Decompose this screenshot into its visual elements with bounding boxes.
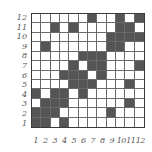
grid-cell-empty <box>97 42 106 51</box>
grid-cell-empty <box>135 23 144 32</box>
x-axis-labels: 123456789101112 <box>31 136 145 148</box>
grid-cell-empty <box>79 42 88 51</box>
grid-cell-empty <box>69 42 78 51</box>
grid-cell-filled <box>51 99 60 108</box>
grid-cell-empty <box>116 118 125 127</box>
grid-cell-filled <box>116 33 125 42</box>
grid-cell-filled <box>69 80 78 89</box>
grid-cell-empty <box>97 80 106 89</box>
grid-cell-filled <box>97 71 106 80</box>
grid-cell-filled <box>135 33 144 42</box>
grid-cell-empty <box>97 89 106 98</box>
grid-cell-empty <box>107 118 116 127</box>
grid-cell-empty <box>32 33 41 42</box>
grid-cell-empty <box>116 71 125 80</box>
grid-cell-empty <box>60 80 69 89</box>
grid-cell-filled <box>79 89 88 98</box>
grid-cell-empty <box>107 52 116 61</box>
grid-cell-empty <box>79 33 88 42</box>
grid-cell-filled <box>41 99 50 108</box>
grid-cell-empty <box>116 61 125 70</box>
grid-cell-empty <box>97 99 106 108</box>
grid-cell-empty <box>107 61 116 70</box>
grid-cell-filled <box>32 118 41 127</box>
grid-cell-empty <box>69 33 78 42</box>
grid-cell-empty <box>51 80 60 89</box>
grid-cell-empty <box>41 89 50 98</box>
grid-cell-empty <box>32 23 41 32</box>
grid-cell-filled <box>116 23 125 32</box>
grid-cell-empty <box>107 99 116 108</box>
grid-cell-empty <box>32 61 41 70</box>
grid-cell-empty <box>60 14 69 23</box>
grid-cell-empty <box>116 52 125 61</box>
grid-cell-empty <box>88 99 97 108</box>
grid-cell-empty <box>125 52 134 61</box>
grid-cell-filled <box>79 52 88 61</box>
grid-cell-empty <box>135 89 144 98</box>
grid-cell-filled <box>97 61 106 70</box>
x-axis-label: 11 <box>126 136 136 148</box>
y-axis-label: 6 <box>0 71 27 81</box>
grid-cell-empty <box>79 14 88 23</box>
grid-cell-empty <box>88 71 97 80</box>
grid-cell-empty <box>69 89 78 98</box>
grid-cell-empty <box>69 99 78 108</box>
grid-cell-empty <box>88 42 97 51</box>
grid-cell-filled <box>125 80 134 89</box>
x-axis-label: 4 <box>60 136 70 148</box>
grid-cell-empty <box>97 33 106 42</box>
grid-cell-empty <box>69 118 78 127</box>
grid-cell-empty <box>69 52 78 61</box>
grid-cell-empty <box>116 108 125 117</box>
grid-cell-empty <box>51 42 60 51</box>
grid-cell-filled <box>51 89 60 98</box>
grid-cell-empty <box>107 89 116 98</box>
y-axis-label: 11 <box>0 23 27 33</box>
grid-cell-empty <box>32 80 41 89</box>
grid-cell-empty <box>97 14 106 23</box>
x-axis-label: 2 <box>41 136 51 148</box>
grid-cell-empty <box>107 80 116 89</box>
y-axis-label: 3 <box>0 99 27 109</box>
grid-cell-empty <box>60 33 69 42</box>
y-axis-label: 8 <box>0 51 27 61</box>
grid-cell-filled <box>41 108 50 117</box>
grid-cell-empty <box>51 61 60 70</box>
grid-cell-filled <box>41 118 50 127</box>
x-axis-label: 1 <box>31 136 41 148</box>
grid-cell-empty <box>135 99 144 108</box>
grid-cell-empty <box>32 71 41 80</box>
y-axis-label: 5 <box>0 80 27 90</box>
grid-cell-empty <box>79 23 88 32</box>
grid-cell-empty <box>125 118 134 127</box>
cell-grid <box>31 13 145 128</box>
grid-cell-empty <box>32 99 41 108</box>
grid-cell-filled <box>88 14 97 23</box>
grid-cell-filled <box>125 33 134 42</box>
grid-cell-empty <box>41 23 50 32</box>
grid-cell-filled <box>107 33 116 42</box>
grid-cell-empty <box>135 71 144 80</box>
y-axis-label: 12 <box>0 13 27 23</box>
grid-cell-empty <box>32 42 41 51</box>
grid-cell-filled <box>88 80 97 89</box>
grid-cell-filled <box>125 23 134 32</box>
x-axis-label: 12 <box>136 136 146 148</box>
x-axis-label: 10 <box>117 136 127 148</box>
grid-cell-filled <box>60 71 69 80</box>
grid-cell-filled <box>51 23 60 32</box>
x-axis-label: 7 <box>88 136 98 148</box>
y-axis-label: 2 <box>0 109 27 119</box>
grid-cell-empty <box>88 108 97 117</box>
grid-cell-filled <box>60 89 69 98</box>
grid-cell-filled <box>135 61 144 70</box>
grid-cell-empty <box>60 42 69 51</box>
grid-cell-filled <box>107 42 116 51</box>
grid-cell-empty <box>135 42 144 51</box>
grid-cell-filled <box>41 42 50 51</box>
grid-cell-filled <box>60 99 69 108</box>
grid-cell-empty <box>32 14 41 23</box>
y-axis-labels: 121110987654321 <box>0 13 27 128</box>
grid-cell-empty <box>97 23 106 32</box>
